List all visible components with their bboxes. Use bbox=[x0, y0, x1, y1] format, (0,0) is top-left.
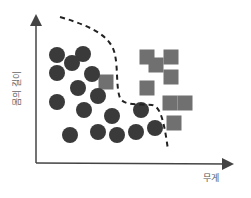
circle-point bbox=[128, 124, 144, 140]
circle-point bbox=[49, 47, 65, 63]
circle-point bbox=[84, 66, 100, 82]
circle-point bbox=[109, 127, 125, 143]
square-point bbox=[99, 75, 114, 90]
circle-point bbox=[147, 120, 163, 136]
circle-point bbox=[104, 108, 120, 124]
square-point bbox=[163, 96, 178, 111]
square-point bbox=[140, 81, 155, 96]
circle-point bbox=[90, 124, 106, 140]
square-point bbox=[164, 50, 179, 65]
square-point bbox=[164, 70, 179, 85]
circle-point bbox=[49, 65, 65, 81]
circle-point bbox=[70, 80, 86, 96]
circle-point bbox=[49, 94, 65, 110]
circle-point bbox=[90, 88, 106, 104]
square-point bbox=[167, 116, 182, 131]
circle-point bbox=[76, 102, 92, 118]
y-axis-label: 몸의 길이 bbox=[2, 76, 32, 106]
circle-point bbox=[62, 127, 78, 143]
square-point bbox=[178, 96, 193, 111]
circle-point bbox=[64, 55, 80, 71]
classification-diagram bbox=[0, 0, 251, 198]
x-axis bbox=[36, 163, 228, 164]
square-point bbox=[149, 58, 164, 73]
x-axis-label: 무게 bbox=[203, 171, 219, 184]
